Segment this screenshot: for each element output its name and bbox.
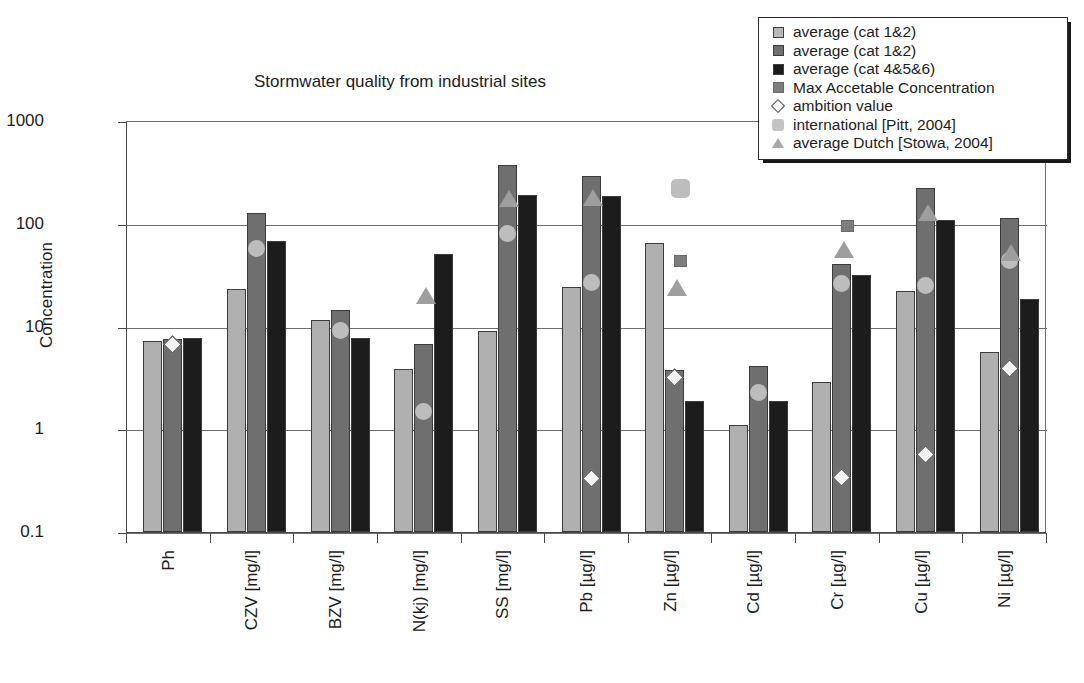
bar[interactable] xyxy=(143,341,162,532)
bar[interactable] xyxy=(351,338,370,532)
bar[interactable] xyxy=(227,289,246,532)
data-point-marker[interactable] xyxy=(750,384,767,401)
x-tick-mark xyxy=(126,533,127,543)
bar[interactable] xyxy=(163,339,182,532)
y-tick-label: 10 xyxy=(0,317,44,337)
bar[interactable] xyxy=(183,338,202,532)
data-point-marker[interactable] xyxy=(671,179,690,198)
light-gray-square-icon-glyph xyxy=(773,27,784,38)
x-tick-mark xyxy=(628,533,629,543)
bar[interactable] xyxy=(832,264,851,532)
legend-item-label: ambition value xyxy=(793,97,893,115)
x-tick-mark xyxy=(544,533,545,543)
triangle-icon xyxy=(767,135,789,151)
dark-gray-square-icon-glyph xyxy=(773,45,784,56)
bar[interactable] xyxy=(896,291,915,532)
y-tick-label: 1 xyxy=(0,419,44,439)
legend-item[interactable]: average (cat 4&5&6) xyxy=(767,60,1059,79)
bar[interactable] xyxy=(980,352,999,532)
bar[interactable] xyxy=(498,165,517,532)
dark-gray-square-icon xyxy=(767,43,789,59)
data-point-marker[interactable] xyxy=(674,255,687,267)
x-tick-mark xyxy=(210,533,211,543)
bar-group xyxy=(812,121,871,532)
bar[interactable] xyxy=(562,287,581,532)
data-point-marker[interactable] xyxy=(918,204,938,221)
x-tick-mark xyxy=(962,533,963,543)
bar[interactable] xyxy=(645,243,664,532)
data-point-marker[interactable] xyxy=(332,322,349,339)
chart-legend: average (cat 1&2)average (cat 1&2)averag… xyxy=(758,17,1068,160)
x-tick-label: CZV [mg/l] xyxy=(242,550,262,630)
black-square-icon-glyph xyxy=(773,64,784,75)
gridline xyxy=(127,533,1047,534)
data-point-marker[interactable] xyxy=(415,403,432,420)
x-tick-mark xyxy=(293,533,294,543)
bar-group xyxy=(478,121,537,532)
y-tick-label: 0.1 xyxy=(0,522,44,542)
data-point-marker[interactable] xyxy=(583,189,603,206)
legend-item[interactable]: Max Accetable Concentration xyxy=(767,79,1059,98)
legend-item-label: average Dutch [Stowa, 2004] xyxy=(793,134,993,152)
legend-item-label: international [Pitt, 2004] xyxy=(793,116,956,134)
chart-figure: Stormwater quality from industrial sites… xyxy=(0,0,1084,683)
bar[interactable] xyxy=(478,331,497,532)
x-tick-label: Ni [µg/l] xyxy=(995,550,1015,608)
rounded-square-icon xyxy=(767,117,789,133)
legend-item[interactable]: ambition value xyxy=(767,97,1059,116)
bar[interactable] xyxy=(665,370,684,532)
bar[interactable] xyxy=(311,320,330,532)
data-point-marker[interactable] xyxy=(248,240,265,257)
data-point-marker[interactable] xyxy=(583,274,600,291)
x-tick-label: Pb [µg/l] xyxy=(577,550,597,613)
x-tick-label: Cr [µg/l] xyxy=(828,550,848,610)
light-gray-square-icon xyxy=(767,24,789,40)
bar[interactable] xyxy=(434,254,453,532)
bar[interactable] xyxy=(602,196,621,532)
plot-area xyxy=(126,122,1046,533)
data-point-marker[interactable] xyxy=(499,225,516,242)
x-tick-label: BZV [mg/l] xyxy=(326,550,346,629)
bar[interactable] xyxy=(729,425,748,532)
bar[interactable] xyxy=(936,220,955,532)
x-tick-mark xyxy=(795,533,796,543)
x-tick-label: SS [mg/l] xyxy=(493,550,513,619)
bar-group xyxy=(143,121,202,532)
legend-item-label: average (cat 1&2) xyxy=(793,23,916,41)
bar[interactable] xyxy=(769,401,788,532)
bar[interactable] xyxy=(331,310,350,532)
x-tick-mark xyxy=(377,533,378,543)
data-point-marker[interactable] xyxy=(499,190,519,207)
open-diamond-icon xyxy=(767,98,789,114)
bar[interactable] xyxy=(916,188,935,532)
bar[interactable] xyxy=(1020,299,1039,532)
bar-group xyxy=(394,121,453,532)
bar[interactable] xyxy=(267,241,286,532)
legend-item[interactable]: average (cat 1&2) xyxy=(767,23,1059,42)
open-diamond-icon-glyph xyxy=(771,99,785,113)
x-tick-label: Cd [µg/l] xyxy=(744,550,764,614)
data-point-marker[interactable] xyxy=(841,220,854,232)
data-point-marker[interactable] xyxy=(667,279,687,296)
bar[interactable] xyxy=(247,213,266,532)
x-tick-label: N(kj) [mg/l] xyxy=(410,550,430,632)
black-square-icon xyxy=(767,61,789,77)
bar[interactable] xyxy=(812,382,831,532)
legend-item-label: Max Accetable Concentration xyxy=(793,79,995,97)
legend-item[interactable]: average Dutch [Stowa, 2004] xyxy=(767,134,1059,153)
bar[interactable] xyxy=(685,401,704,532)
bar[interactable] xyxy=(852,275,871,532)
data-point-marker[interactable] xyxy=(834,241,854,258)
legend-item[interactable]: international [Pitt, 2004] xyxy=(767,116,1059,135)
legend-item[interactable]: average (cat 1&2) xyxy=(767,42,1059,61)
y-tick-label: 1000 xyxy=(0,111,44,131)
bar[interactable] xyxy=(414,344,433,532)
bar[interactable] xyxy=(394,369,413,532)
chart-title: Stormwater quality from industrial sites xyxy=(120,72,680,92)
bar[interactable] xyxy=(518,195,537,532)
bar-group xyxy=(980,121,1039,532)
bar-group xyxy=(562,121,621,532)
data-point-marker[interactable] xyxy=(1001,244,1021,261)
bar-group xyxy=(645,121,704,532)
data-point-marker[interactable] xyxy=(416,287,436,304)
